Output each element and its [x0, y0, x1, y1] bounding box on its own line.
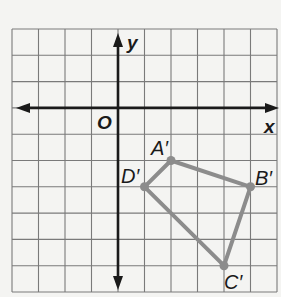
y-axis-up-arrow-icon [113, 33, 123, 47]
vertex-label-c: C′ [224, 272, 242, 292]
x-axis-label: x [264, 117, 275, 136]
x-axis-left-arrow-icon [16, 103, 30, 113]
origin-label: O [97, 113, 112, 132]
vertex-label-d: D′ [121, 166, 139, 186]
vertex-point [220, 261, 229, 270]
y-axis-down-arrow-icon [113, 276, 123, 290]
vertex-point [140, 182, 149, 191]
vertex-label-a: A′ [151, 138, 168, 158]
coordinate-grid [0, 0, 281, 297]
vertex-label-b: B′ [255, 168, 272, 188]
y-axis-label: y [127, 33, 138, 52]
vertex-point [246, 182, 255, 191]
